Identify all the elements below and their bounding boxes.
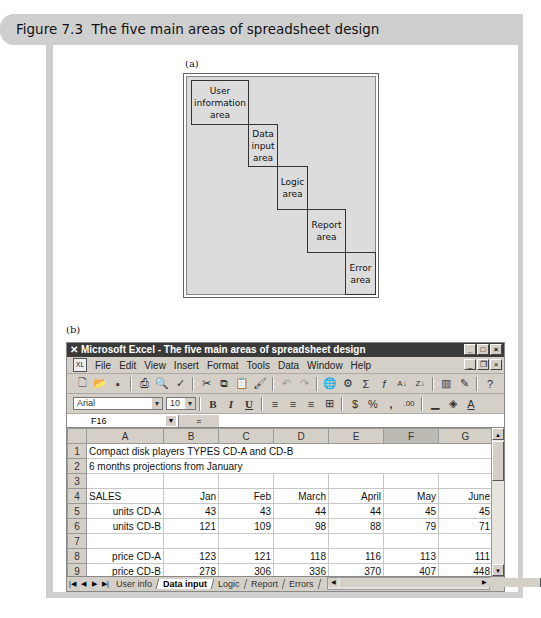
borders-icon[interactable]: ▁ [427,397,443,410]
doc-close-button[interactable]: × [490,359,502,370]
cell[interactable] [274,474,329,489]
font-color-icon[interactable]: A [463,398,479,410]
scroll-left-icon[interactable]: ◀ [328,578,338,587]
cell[interactable]: 370 [329,564,384,577]
row-header[interactable]: 9 [68,564,87,577]
cell[interactable]: 278 [164,564,219,577]
cell[interactable]: 43 [219,504,274,519]
cell[interactable]: April [329,489,384,504]
copy-icon[interactable]: ⧉ [216,377,232,390]
horizontal-scrollbar[interactable]: ◀ ▶ [327,577,490,590]
cell[interactable]: Feb [219,489,274,504]
scroll-right-icon[interactable]: ▶ [479,578,489,587]
formula-input[interactable] [219,415,504,427]
edit-formula-button[interactable]: = [179,415,219,427]
hyperlink-icon[interactable]: 🌐 [322,377,338,390]
scroll-thumb[interactable] [340,578,541,587]
align-right-icon[interactable]: ≡ [303,398,319,410]
cell[interactable] [164,474,219,489]
cell[interactable] [384,474,439,489]
select-all-corner[interactable] [68,429,87,444]
cell[interactable]: 407 [384,564,439,577]
percent-button[interactable]: % [365,398,381,410]
currency-icon[interactable]: $ [347,398,363,410]
cell[interactable]: 44 [329,504,384,519]
cell[interactable]: units CD-B [87,519,164,534]
print-preview-icon[interactable]: 🔍 [154,377,170,390]
row-header[interactable]: 3 [68,474,87,489]
cell[interactable]: 44 [274,504,329,519]
menu-view[interactable]: View [144,360,166,371]
row-header[interactable]: 1 [68,444,87,459]
menu-format[interactable]: Format [207,360,239,371]
cell[interactable]: 88 [329,519,384,534]
first-sheet-icon[interactable]: |◀ [67,580,78,588]
prev-sheet-icon[interactable]: ◀ [78,580,89,588]
cell[interactable] [329,534,384,549]
scroll-down-icon[interactable]: ▼ [492,564,504,576]
align-left-icon[interactable]: ≡ [267,398,283,410]
undo-icon[interactable]: ↶ [278,377,294,390]
tab-data-input[interactable]: Data input [157,579,215,589]
cell[interactable] [87,534,164,549]
maximize-button[interactable]: □ [477,344,489,355]
close-button[interactable]: × [490,344,502,355]
cell[interactable]: 336 [274,564,329,577]
cell[interactable]: May [384,489,439,504]
cell[interactable]: 6 months projections from January [87,459,493,474]
open-icon[interactable]: 📂 [92,377,108,390]
redo-icon[interactable]: ↷ [296,377,312,390]
web-toolbar-icon[interactable]: ⚙ [340,377,356,390]
font-select[interactable]: Arial▼ [73,397,163,410]
cell[interactable] [164,534,219,549]
column-header[interactable]: C [219,429,274,444]
row-header[interactable]: 8 [68,549,87,564]
row-header[interactable]: 4 [68,489,87,504]
vertical-scrollbar[interactable]: ▲ ▼ [491,428,504,576]
cell[interactable]: 111 [439,549,493,564]
title-bar[interactable]: ✕Microsoft Excel - The five main areas o… [67,343,504,357]
scroll-thumb[interactable] [492,441,504,481]
row-header[interactable]: 5 [68,504,87,519]
cell[interactable]: 79 [384,519,439,534]
cell[interactable]: SALES [87,489,164,504]
new-icon[interactable]: 🗋 [74,374,90,393]
cell[interactable]: units CD-A [87,504,164,519]
workbook-icon[interactable]: XL [73,358,87,372]
menu-file[interactable]: File [95,360,111,371]
sort-descending-icon[interactable]: Z↓ [412,379,428,388]
spelling-icon[interactable]: ✓ [172,377,188,390]
sort-ascending-icon[interactable]: A↓ [394,379,410,388]
cell[interactable]: 109 [219,519,274,534]
menu-insert[interactable]: Insert [174,360,199,371]
drawing-icon[interactable]: ✎ [456,377,472,390]
cell[interactable]: 121 [164,519,219,534]
tab-logic[interactable]: Logic [212,579,247,589]
menu-tools[interactable]: Tools [247,360,270,371]
merge-center-icon[interactable]: ⊞ [321,397,337,410]
cell[interactable]: 45 [384,504,439,519]
center-icon[interactable]: ≡ [285,398,301,410]
cell[interactable]: 43 [164,504,219,519]
cell[interactable] [439,474,493,489]
comma-button[interactable]: , [383,398,399,410]
format-painter-icon[interactable]: 🖌 [252,377,268,390]
menu-window[interactable]: Window [307,360,343,371]
cell[interactable]: Jan [164,489,219,504]
tab-errors[interactable]: Errors [282,579,320,589]
bold-button[interactable]: B [205,398,221,410]
tab-report[interactable]: Report [244,579,285,589]
tab-user-info[interactable]: User info [110,579,160,589]
paste-icon[interactable]: 📋 [234,377,250,390]
cell[interactable]: 71 [439,519,493,534]
fill-color-icon[interactable]: ◈ [445,397,461,410]
cell[interactable]: 98 [274,519,329,534]
cell[interactable]: Compact disk players TYPES CD-A and CD-B [87,444,493,459]
increase-decimal-icon[interactable]: .00 [401,399,417,408]
next-sheet-icon[interactable]: ▶ [89,580,100,588]
office-assistant-icon[interactable]: ? [482,378,498,390]
autosum-icon[interactable]: Σ [358,378,374,390]
column-header[interactable]: A [87,429,164,444]
cell[interactable]: June [439,489,493,504]
column-header[interactable]: B [164,429,219,444]
